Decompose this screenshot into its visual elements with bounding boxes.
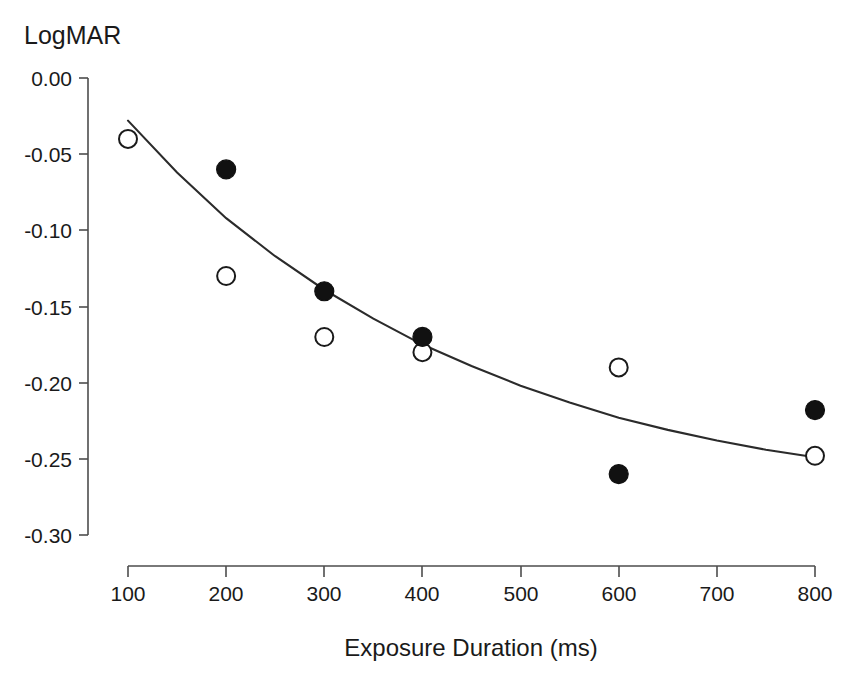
logmar-exposure-duration-chart: LogMAR 0.00 -0.05 -0.10 -0.15 -0.20 -0.2…: [0, 0, 857, 684]
data-point: [806, 401, 825, 420]
data-point: [217, 160, 236, 179]
y-tick-label-5: -0.25: [24, 448, 72, 471]
data-point: [315, 282, 334, 301]
data-point: [217, 267, 235, 285]
y-tick-label-6: -0.30: [24, 524, 72, 547]
x-tick-label-4: 500: [503, 582, 538, 605]
y-axis-title: LogMAR: [24, 21, 121, 49]
x-tick-label-0: 100: [110, 582, 145, 605]
chart-figure: LogMAR 0.00 -0.05 -0.10 -0.15 -0.20 -0.2…: [0, 0, 857, 684]
data-point: [413, 327, 432, 346]
data-point: [806, 447, 824, 465]
data-point: [610, 358, 628, 376]
y-tick-label-0: 0.00: [31, 67, 72, 90]
x-tick-label-6: 700: [699, 582, 734, 605]
y-tick-label-1: -0.05: [24, 143, 72, 166]
x-tick-label-2: 300: [306, 582, 341, 605]
data-point: [315, 328, 333, 346]
x-tick-label-5: 600: [601, 582, 636, 605]
data-point: [119, 130, 137, 148]
y-tick-label-3: -0.15: [24, 296, 72, 319]
data-point: [609, 465, 628, 484]
y-tick-label-2: -0.10: [24, 219, 72, 242]
x-tick-label-3: 400: [404, 582, 439, 605]
x-tick-label-1: 200: [208, 582, 243, 605]
x-axis-title: Exposure Duration (ms): [344, 634, 597, 661]
x-tick-label-7: 800: [797, 582, 832, 605]
y-tick-label-4: -0.20: [24, 372, 72, 395]
